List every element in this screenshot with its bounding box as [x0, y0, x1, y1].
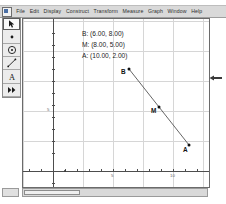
point-B[interactable] — [128, 68, 131, 71]
tool-palette: A — [2, 17, 21, 98]
menu-item-transform[interactable]: Transform — [91, 6, 120, 17]
point-tool[interactable] — [3, 30, 20, 43]
measurement-point-b[interactable]: B: (6.00, 8.00) — [82, 28, 127, 39]
svg-text:A: A — [8, 73, 14, 81]
menu-item-edit[interactable]: Edit — [27, 6, 41, 17]
selection-arrow-tool[interactable] — [3, 18, 20, 30]
measurement-point-a[interactable]: A: (10.00, 2.00) — [82, 50, 127, 61]
point-icon — [7, 32, 16, 41]
compass-tool[interactable] — [3, 44, 20, 57]
menu-item-file[interactable]: File — [14, 6, 27, 17]
arrow-icon — [7, 20, 16, 29]
letter-a-icon: A — [7, 72, 16, 81]
point-label-A[interactable]: A — [183, 146, 188, 153]
point-label-B[interactable]: B — [121, 68, 126, 75]
menu-item-help[interactable]: Help — [189, 6, 205, 17]
menu-item-window[interactable]: Window — [165, 6, 189, 17]
sketchpad-window: File Edit Display Construct Transform Me… — [0, 0, 226, 204]
text-tool[interactable]: A — [3, 70, 20, 83]
measurement-point-m[interactable]: M: (8.00, 5.00) — [82, 39, 127, 50]
menu-item-display[interactable]: Display — [41, 6, 63, 17]
menu-bar: File Edit Display Construct Transform Me… — [0, 5, 226, 18]
scrollbar-corner — [2, 188, 19, 197]
horizontal-scrollbar[interactable] — [22, 188, 208, 197]
menu-item-construct[interactable]: Construct — [64, 6, 92, 17]
circle-icon — [7, 45, 17, 55]
straightedge-tool[interactable] — [3, 57, 20, 70]
segment-icon — [7, 58, 17, 68]
menu-item-graph[interactable]: Graph — [146, 6, 166, 17]
custom-tool[interactable] — [3, 84, 20, 97]
point-label-M[interactable]: M — [151, 107, 156, 114]
menu-item-measure[interactable]: Measure — [120, 6, 145, 17]
measurement-panel: B: (6.00, 8.00) M: (8.00, 5.00) A: (10.0… — [82, 28, 127, 61]
double-arrow-icon — [7, 85, 17, 94]
sketchpad-icon — [2, 7, 12, 17]
horizontal-scrollbar-thumb[interactable] — [24, 190, 80, 195]
mouse-pointer — [209, 74, 223, 82]
point-M[interactable] — [158, 106, 161, 109]
